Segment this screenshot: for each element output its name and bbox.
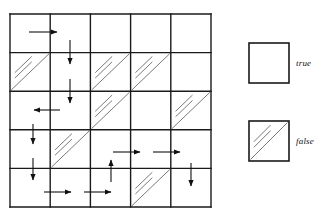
grid-cell-r5-c1: [10, 168, 50, 207]
legend-swatch-false: [249, 121, 289, 161]
grid-cell-r1-c1: [10, 14, 50, 53]
grid-cell-r4-c5: [171, 130, 211, 169]
grid-cell-r4-c4: [131, 130, 171, 169]
legend-label-true: true: [296, 58, 311, 68]
grid-cell-r3-c4: [131, 91, 171, 130]
legend-label-false: false: [296, 136, 314, 146]
legend-boxes: [249, 43, 289, 161]
cell-grid-figure: [0, 0, 321, 221]
legend-swatch-true: [249, 43, 289, 83]
grid-cell-r1-c5: [171, 14, 211, 53]
grid-cell-r4-c1: [10, 130, 50, 169]
grid-cell-r1-c3: [90, 14, 130, 53]
grid-cell-r1-c4: [131, 14, 171, 53]
grid-cell-r2-c5: [171, 53, 211, 92]
grid-cell-r5-c2: [50, 168, 90, 207]
